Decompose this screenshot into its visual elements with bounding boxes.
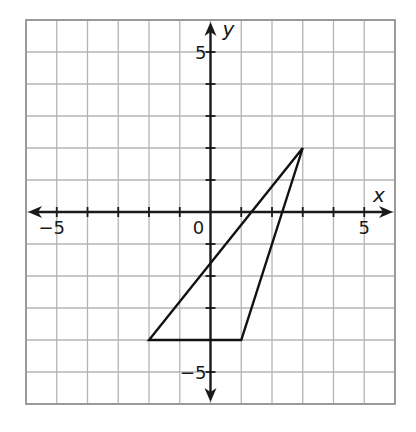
- y-tick-label: −5: [180, 362, 207, 383]
- coordinate-plane: −5055−5 x y: [0, 0, 416, 432]
- y-tick-label: 5: [195, 42, 206, 63]
- x-tick-label: −5: [38, 217, 65, 238]
- x-tick-label: 0: [193, 217, 204, 238]
- x-tick-label: 5: [359, 217, 370, 238]
- x-axis-label: x: [372, 183, 385, 207]
- axes: [28, 22, 393, 402]
- y-axis-label: y: [222, 17, 236, 41]
